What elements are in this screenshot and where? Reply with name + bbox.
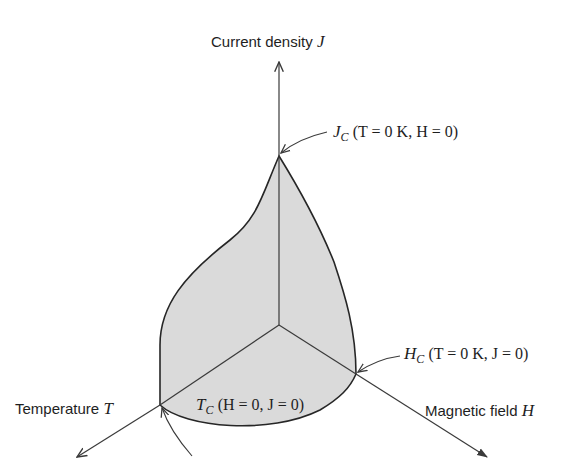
tc-subscript: C xyxy=(205,403,213,417)
h-axis-symbol: H xyxy=(522,401,534,420)
hc-condition: (T = 0 K, J = 0) xyxy=(428,345,528,362)
t-axis-symbol: T xyxy=(103,399,112,418)
hc-annotation: HC (T = 0 K, J = 0) xyxy=(404,344,528,364)
j-axis-label-text: Current density xyxy=(211,33,313,50)
critical-surface-diagram xyxy=(0,0,582,459)
jc-leader-arrow xyxy=(281,132,327,153)
jc-condition: (T = 0 K, H = 0) xyxy=(353,123,458,140)
h-axis-label-text: Magnetic field xyxy=(425,402,518,419)
hc-symbol: H xyxy=(404,344,416,363)
t-axis-label: Temperature T xyxy=(15,399,113,419)
h-axis-label: Magnetic field H xyxy=(425,401,534,421)
hc-leader-arrow xyxy=(358,356,400,372)
jc-symbol: J xyxy=(333,122,341,141)
hc-subscript: C xyxy=(416,352,424,366)
j-axis-symbol: J xyxy=(317,32,325,51)
j-axis-label: Current density J xyxy=(211,32,324,52)
t-axis-label-text: Temperature xyxy=(15,400,99,417)
tc-annotation: TC (H = 0, J = 0) xyxy=(196,395,304,415)
tc-condition: (H = 0, J = 0) xyxy=(218,396,304,413)
jc-annotation: JC (T = 0 K, H = 0) xyxy=(333,122,458,142)
jc-subscript: C xyxy=(341,130,349,144)
